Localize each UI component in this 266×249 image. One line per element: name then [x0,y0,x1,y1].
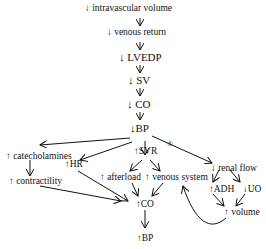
node-uo: ↓UO [243,185,261,195]
node-renal-flow: ↓ renal flow [211,164,257,174]
node-svr: ↑SVR [134,147,157,157]
node-co-increase: ↑CO [136,200,154,210]
node-contractility: ↑ contractility [9,177,62,187]
node-venous-return: ↓ venous return [107,28,166,38]
node-co-decrease: ↓ CO [127,99,151,110]
node-venous-system: ↑ venous system [145,173,208,183]
node-lvedp: ↓ LVEDP [119,52,162,63]
node-hr: ↑HR [65,160,83,170]
node-adh: ↑ADH [209,185,234,195]
node-afterload: ↑ afterload [100,173,141,183]
node-intravascular-volume: ↓ intravascular volume [85,4,172,14]
node-volume: ↑ volume [224,208,260,218]
svr-marker: ① [167,140,173,148]
node-catecholamines: ↑ catecholamines [6,152,72,162]
node-bp-increase: ↑BP [137,234,153,244]
node-sv: ↓ SV [128,75,150,86]
node-bp-decrease: ↓BP [130,123,149,134]
